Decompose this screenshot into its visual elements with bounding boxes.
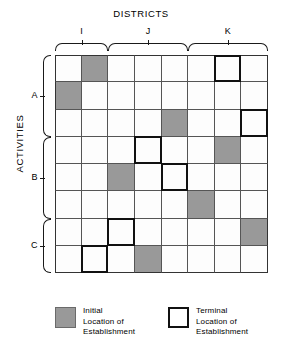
matrix-cell xyxy=(241,246,268,273)
matrix-cell xyxy=(135,55,162,82)
matrix-cell xyxy=(55,191,82,218)
matrix-cell xyxy=(82,82,109,109)
matrix-cell xyxy=(55,164,82,191)
matrix-cell xyxy=(55,219,82,246)
matrix-grid xyxy=(55,55,268,273)
legend-initial-line2: Location of xyxy=(83,317,135,328)
legend-initial-line1: Initial xyxy=(83,306,135,317)
legend-entry-terminal: Terminal Location of Establishment xyxy=(168,306,248,338)
activity-label-c: C xyxy=(26,240,38,250)
matrix-cell-terminal xyxy=(162,164,189,191)
matrix-cell xyxy=(82,110,109,137)
legend-terminal-line2: Location of xyxy=(196,317,248,328)
matrix-cell xyxy=(188,246,215,273)
legend-initial-line3: Establishment xyxy=(83,327,135,338)
matrix-cell xyxy=(162,55,189,82)
matrix-cell xyxy=(188,219,215,246)
matrix-cell-terminal xyxy=(215,55,242,82)
district-label-j: J xyxy=(108,26,188,36)
district-bracket-k xyxy=(188,43,268,51)
matrix-cell-initial xyxy=(55,82,82,109)
matrix-cell xyxy=(162,219,189,246)
matrix-cell xyxy=(215,82,242,109)
matrix-cell xyxy=(108,246,135,273)
matrix-cell xyxy=(55,246,82,273)
matrix-cell xyxy=(55,137,82,164)
matrix-cell xyxy=(241,137,268,164)
legend-label-terminal: Terminal Location of Establishment xyxy=(196,306,248,338)
matrix-cell xyxy=(108,191,135,218)
matrix-cell xyxy=(82,137,109,164)
matrix-cell xyxy=(82,164,109,191)
legend-terminal-line3: Establishment xyxy=(196,327,248,338)
matrix-cell xyxy=(55,110,82,137)
matrix-cell xyxy=(215,191,242,218)
matrix-cell xyxy=(215,164,242,191)
terminal-location-swatch xyxy=(168,307,189,328)
matrix-cell-initial xyxy=(135,246,162,273)
matrix-cell-initial xyxy=(82,55,109,82)
matrix-cell xyxy=(188,164,215,191)
matrix-cell-initial xyxy=(162,110,189,137)
matrix-cell xyxy=(135,191,162,218)
legend: Initial Location of Establishment Termin… xyxy=(0,300,282,346)
matrix-cell xyxy=(135,82,162,109)
matrix-cell xyxy=(215,219,242,246)
matrix-cell xyxy=(82,191,109,218)
matrix-cell xyxy=(188,137,215,164)
matrix-cell xyxy=(55,55,82,82)
page-title: DISTRICTS xyxy=(0,8,282,19)
activity-bracket-a xyxy=(43,55,51,137)
matrix-cell xyxy=(162,191,189,218)
legend-terminal-line1: Terminal xyxy=(196,306,248,317)
matrix-cell xyxy=(135,219,162,246)
matrix-cell-terminal xyxy=(241,110,268,137)
matrix-cell xyxy=(108,82,135,109)
matrix-cell xyxy=(188,110,215,137)
activity-label-b: B xyxy=(26,172,38,182)
matrix-cell-initial xyxy=(241,219,268,246)
matrix-cell xyxy=(188,55,215,82)
legend-entry-initial: Initial Location of Establishment xyxy=(55,306,135,338)
matrix-cell xyxy=(162,82,189,109)
district-bracket-i xyxy=(55,43,108,51)
matrix-cell xyxy=(162,137,189,164)
matrix-cell xyxy=(108,55,135,82)
activity-bracket-b xyxy=(43,137,51,219)
matrix-cell xyxy=(162,246,189,273)
district-label-k: K xyxy=(188,26,268,36)
matrix-cell-initial xyxy=(215,137,242,164)
matrix-cell xyxy=(188,82,215,109)
matrix-cell xyxy=(241,191,268,218)
activities-axis-title: ACTIVITIES xyxy=(14,94,25,194)
matrix-cell-initial xyxy=(108,164,135,191)
matrix-cell xyxy=(241,164,268,191)
matrix-cell xyxy=(135,164,162,191)
matrix-cell xyxy=(215,246,242,273)
activity-bracket-c xyxy=(43,219,51,274)
matrix-cell-terminal xyxy=(135,137,162,164)
matrix-cell-terminal xyxy=(82,246,109,273)
initial-location-swatch xyxy=(55,307,76,328)
matrix-cell xyxy=(135,110,162,137)
matrix-cell xyxy=(82,219,109,246)
legend-label-initial: Initial Location of Establishment xyxy=(83,306,135,338)
matrix-cell xyxy=(108,137,135,164)
matrix-cell xyxy=(215,110,242,137)
district-bracket-j xyxy=(108,43,188,51)
matrix-cell xyxy=(241,82,268,109)
matrix-cell xyxy=(241,55,268,82)
matrix-cell-initial xyxy=(188,191,215,218)
matrix-cell-terminal xyxy=(108,219,135,246)
activity-label-a: A xyxy=(26,90,38,100)
district-label-i: I xyxy=(55,26,108,36)
matrix-cell xyxy=(108,110,135,137)
